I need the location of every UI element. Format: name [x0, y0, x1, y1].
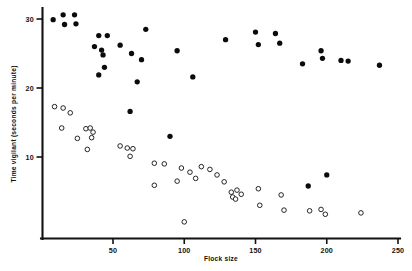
- data-point-open: [68, 111, 73, 116]
- x-tick-label: 50: [109, 246, 117, 255]
- data-point-open: [229, 190, 234, 195]
- data-point-open: [162, 162, 167, 167]
- data-point-filled: [324, 172, 329, 177]
- y-tick-label: 20: [26, 84, 34, 93]
- data-point-filled: [92, 44, 97, 49]
- data-point-filled: [62, 22, 67, 27]
- data-point-filled: [174, 48, 179, 53]
- data-point-open: [193, 176, 198, 181]
- data-point-open: [282, 208, 287, 213]
- data-point-open: [179, 166, 184, 171]
- data-point-open: [323, 212, 328, 217]
- data-point-open: [125, 146, 130, 151]
- plot-canvas: 102030 50100150200250 Flock size Time vi…: [0, 0, 412, 271]
- data-point-filled: [167, 134, 172, 139]
- data-point-open: [59, 126, 64, 131]
- data-point-open: [199, 164, 204, 169]
- data-point-filled: [139, 57, 144, 62]
- data-point-filled: [223, 37, 228, 42]
- y-tick-group: 102030: [26, 15, 43, 162]
- y-tick-label: 30: [26, 15, 34, 24]
- data-point-filled: [105, 33, 110, 38]
- data-point-filled: [338, 58, 343, 63]
- data-point-open: [91, 130, 96, 135]
- data-point-filled: [377, 63, 382, 68]
- data-point-open: [257, 203, 262, 208]
- data-point-open: [131, 146, 136, 151]
- data-point-open: [61, 106, 66, 111]
- data-point-filled: [96, 72, 101, 77]
- data-point-filled: [51, 17, 56, 22]
- data-point-open: [182, 220, 187, 225]
- data-point-filled: [100, 52, 105, 57]
- data-point-open: [152, 183, 157, 188]
- x-tick-label: 100: [178, 246, 191, 255]
- data-point-filled: [117, 43, 122, 48]
- y-tick-label: 10: [26, 153, 34, 162]
- data-point-open: [239, 192, 244, 197]
- data-point-open: [188, 170, 193, 175]
- data-point-open: [222, 180, 227, 185]
- y-axis-title: Time vigilant (seconds per minute): [10, 65, 18, 182]
- data-point-filled: [99, 47, 104, 52]
- data-point-filled: [60, 12, 65, 17]
- data-point-filled: [253, 29, 258, 34]
- data-point-filled: [320, 56, 325, 61]
- data-point-filled: [96, 33, 101, 38]
- x-tick-group: 50100150200250: [109, 239, 405, 255]
- axes-group: [41, 8, 400, 239]
- data-point-filled: [277, 41, 282, 46]
- data-point-open: [233, 197, 238, 202]
- data-point-open: [75, 136, 80, 141]
- data-point-filled: [135, 79, 140, 84]
- data-point-open: [152, 161, 157, 166]
- data-point-filled: [256, 42, 261, 47]
- data-point-open: [279, 193, 284, 198]
- x-axis-title: Flock size: [204, 255, 238, 262]
- data-point-open: [256, 186, 261, 191]
- data-point-filled: [273, 31, 278, 36]
- data-point-filled: [72, 12, 77, 17]
- data-point-filled: [306, 183, 311, 188]
- open-circle-series: [52, 104, 363, 224]
- data-point-open: [359, 211, 364, 216]
- data-point-filled: [127, 109, 132, 114]
- data-point-filled: [129, 51, 134, 56]
- data-point-filled: [73, 21, 78, 26]
- data-point-open: [85, 147, 90, 152]
- data-point-open: [235, 188, 240, 193]
- x-tick-label: 250: [392, 246, 405, 255]
- data-point-open: [118, 144, 123, 149]
- data-point-open: [128, 154, 133, 159]
- x-tick-label: 200: [320, 246, 333, 255]
- data-point-filled: [300, 61, 305, 66]
- data-point-open: [208, 167, 213, 172]
- data-point-filled: [143, 27, 148, 32]
- data-point-open: [89, 135, 94, 140]
- data-point-open: [319, 207, 324, 212]
- scatter-plot-figure: 102030 50100150200250 Flock size Time vi…: [0, 0, 412, 271]
- data-point-filled: [102, 65, 107, 70]
- x-tick-label: 150: [249, 246, 262, 255]
- data-point-filled: [190, 74, 195, 79]
- data-point-open: [52, 104, 57, 109]
- data-point-open: [307, 209, 312, 214]
- data-point-open: [215, 173, 220, 178]
- data-point-open: [175, 179, 180, 184]
- data-point-open: [88, 126, 93, 131]
- data-point-filled: [345, 58, 350, 63]
- data-point-filled: [318, 48, 323, 53]
- filled-circle-series: [51, 12, 383, 188]
